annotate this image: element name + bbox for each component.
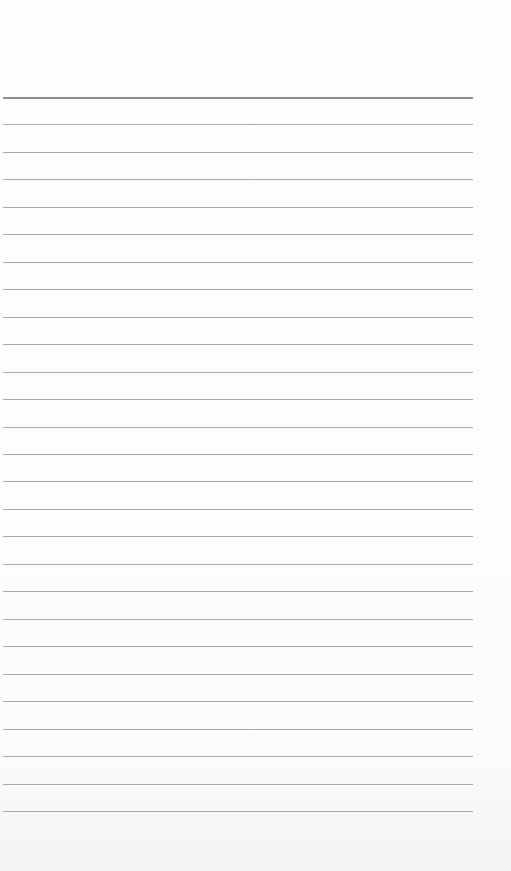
ruled-line: [3, 729, 473, 730]
ruled-line: [3, 344, 473, 345]
ruled-line: [3, 811, 473, 812]
ruled-line: [3, 124, 473, 125]
ruled-line: [3, 97, 473, 99]
ruled-line: [3, 234, 473, 235]
ruled-line: [3, 262, 473, 263]
ruled-line: [3, 784, 473, 785]
ruled-line: [3, 619, 473, 620]
ruled-line: [3, 399, 473, 400]
ruled-line: [3, 674, 473, 675]
ruled-line: [3, 756, 473, 757]
ruled-line: [3, 536, 473, 537]
ruled-line: [3, 207, 473, 208]
ruled-line: [3, 701, 473, 702]
ruled-line: [3, 591, 473, 592]
ruled-line: [3, 509, 473, 510]
ruled-line: [3, 454, 473, 455]
ruled-line: [3, 427, 473, 428]
ruled-line: [3, 372, 473, 373]
ruled-line: [3, 481, 473, 482]
ruled-line: [3, 564, 473, 565]
lined-paper-sheet: [0, 0, 511, 871]
ruled-line: [3, 317, 473, 318]
ruled-line: [3, 289, 473, 290]
ruled-line: [3, 646, 473, 647]
ruled-line: [3, 179, 473, 180]
ruled-line: [3, 152, 473, 153]
